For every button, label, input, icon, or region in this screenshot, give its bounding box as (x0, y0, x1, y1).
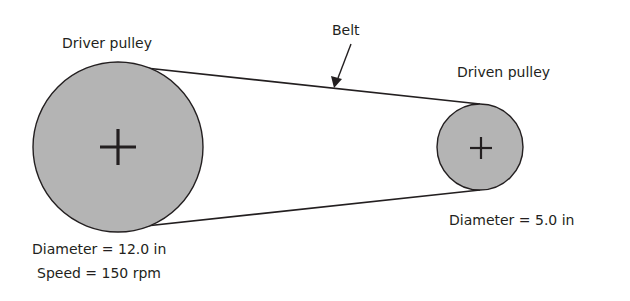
belt-arrowhead-icon (331, 76, 342, 88)
driver-speed-label: Speed = 150 rpm (37, 266, 161, 280)
driver-pulley-label: Driver pulley (62, 36, 152, 50)
driven-diameter-label: Diameter = 5.0 in (449, 213, 574, 227)
belt-arrow-shaft (338, 44, 351, 78)
driver-diameter-label: Diameter = 12.0 in (32, 242, 166, 256)
belt-label: Belt (332, 23, 360, 37)
driven-pulley-label: Driven pulley (457, 65, 550, 79)
